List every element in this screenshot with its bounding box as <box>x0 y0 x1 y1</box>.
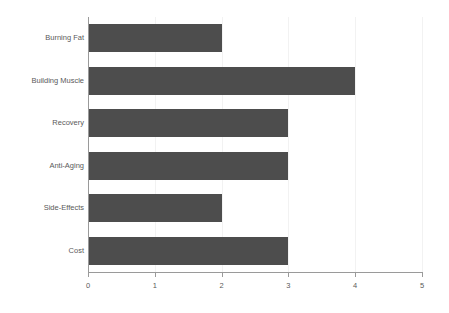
x-axis-tick-mark <box>288 272 289 277</box>
x-axis-tick-mark <box>88 272 89 277</box>
gridline <box>422 17 423 272</box>
bar-row <box>88 194 422 222</box>
x-axis-tick-label: 4 <box>340 281 370 291</box>
x-axis-tick-label: 1 <box>140 281 170 291</box>
y-axis-category-label: Recovery <box>0 118 84 128</box>
x-axis-tick-label: 0 <box>73 281 103 291</box>
x-axis-tick-label: 5 <box>407 281 437 291</box>
gridline <box>222 17 223 272</box>
bar <box>88 24 222 52</box>
x-axis-line <box>88 272 422 273</box>
bar <box>88 109 288 137</box>
bar-row <box>88 152 422 180</box>
x-axis-tick-mark <box>355 272 356 277</box>
bar <box>88 237 288 265</box>
y-axis-line <box>88 17 89 273</box>
bar <box>88 67 355 95</box>
gridline <box>288 17 289 272</box>
y-axis-category-label: Anti-Aging <box>0 161 84 171</box>
x-axis-tick-mark <box>422 272 423 277</box>
x-axis-tick-label: 2 <box>207 281 237 291</box>
y-axis-category-label: Side-Effects <box>0 203 84 213</box>
x-axis-tick-mark <box>222 272 223 277</box>
bar-chart: Burning FatBuilding MuscleRecoveryAnti-A… <box>0 0 449 313</box>
x-axis-tick-mark <box>155 272 156 277</box>
bar-row <box>88 109 422 137</box>
y-axis-category-label: Cost <box>0 246 84 256</box>
bar <box>88 194 222 222</box>
bar-row <box>88 67 422 95</box>
gridline <box>355 17 356 272</box>
bar-row <box>88 24 422 52</box>
x-axis-tick-label: 3 <box>273 281 303 291</box>
y-axis-category-label: Burning Fat <box>0 33 84 43</box>
gridline <box>155 17 156 272</box>
y-axis-category-labels: Burning FatBuilding MuscleRecoveryAnti-A… <box>0 0 84 313</box>
y-axis-category-label: Building Muscle <box>0 76 84 86</box>
bar <box>88 152 288 180</box>
bar-row <box>88 237 422 265</box>
plot-area <box>88 17 422 272</box>
